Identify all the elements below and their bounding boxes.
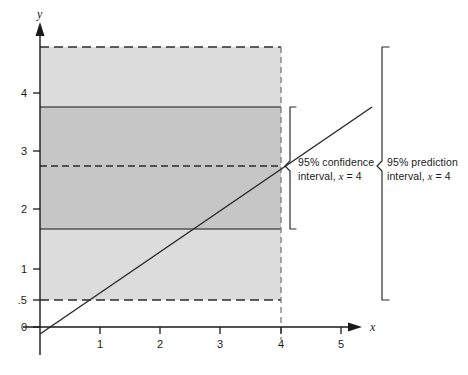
prediction-interval-annotation: 95% prediction interval, x = 4 [387, 155, 458, 184]
y-tick-label-4: 4 [21, 87, 27, 99]
confidence-interval-band [40, 107, 281, 229]
x-axis-label: x [369, 320, 376, 334]
confidence-annotation-suffix: = 4 [343, 170, 361, 182]
prediction-annotation-prefix: interval, [387, 170, 428, 182]
prediction-annotation-line-2: interval, x = 4 [387, 169, 458, 184]
confidence-interval-annotation: 95% confidence interval, x = 4 [298, 155, 374, 184]
y-tick-label-0: 0 [21, 321, 27, 333]
confidence-interval-bracket [285, 107, 296, 229]
confidence-annotation-line-1: 95% confidence [298, 155, 374, 169]
plot-canvas: 0 .5 1 2 3 4 1 2 3 4 5 y x [0, 0, 468, 375]
x-axis-arrowhead-icon [348, 323, 362, 332]
y-axis-label: y [36, 7, 43, 21]
y-tick-label-05: .5 [18, 294, 27, 306]
x-tick-label-2: 2 [157, 338, 163, 350]
x-tick-label-3: 3 [217, 338, 223, 350]
y-tick-label-1: 1 [21, 263, 27, 275]
y-axis-ticks [33, 93, 40, 327]
prediction-annotation-line-1: 95% prediction [387, 155, 458, 169]
x-tick-label-1: 1 [97, 338, 103, 350]
prediction-annotation-suffix: = 4 [432, 170, 450, 182]
x-tick-label-5: 5 [338, 338, 344, 350]
x-tick-label-4: 4 [278, 338, 284, 350]
confidence-annotation-prefix: interval, [298, 170, 339, 182]
y-axis-arrowhead-icon [36, 22, 45, 36]
y-tick-label-2: 2 [21, 203, 27, 215]
statistics-figure: 0 .5 1 2 3 4 1 2 3 4 5 y x 95% confidenc… [0, 0, 468, 375]
y-tick-label-3: 3 [21, 145, 27, 157]
confidence-annotation-line-2: interval, x = 4 [298, 169, 374, 184]
x-axis-ticks [100, 327, 341, 334]
